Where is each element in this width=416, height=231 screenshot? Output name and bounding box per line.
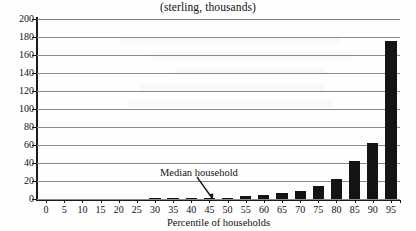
y-tick-mark-200 [32, 19, 37, 20]
x-tick-mark-10 [82, 200, 83, 203]
y-tick-mark-120 [32, 91, 37, 92]
x-tick-mark-80 [336, 200, 337, 203]
y-tick-mark-0 [32, 199, 37, 200]
y-tick-mark-20 [32, 181, 37, 182]
x-axis-title: Percentile of households [37, 217, 400, 228]
y-tick-mark-60 [32, 145, 37, 146]
y-tick-mark-180 [32, 37, 37, 38]
x-tick-mark-25 [137, 200, 138, 203]
y-tick-label-200: 200 [4, 14, 34, 24]
y-tick-mark-140 [32, 73, 37, 74]
y-tick-label-0: 0 [4, 194, 34, 204]
x-tick-mark-end [400, 200, 401, 203]
x-tick-mark-70 [300, 200, 301, 203]
gridline-200 [37, 19, 400, 20]
bar-percentile-75 [313, 186, 324, 199]
x-tick-mark-95 [391, 200, 392, 203]
y-tick-mark-80 [32, 127, 37, 128]
bar-percentile-80 [331, 179, 342, 199]
x-tick-mark-30 [155, 200, 156, 203]
x-tick-label-95: 95 [380, 204, 402, 215]
y-tick-label-120: 120 [4, 86, 34, 96]
gridline-100 [37, 109, 400, 110]
annotation-arrow-icon [196, 176, 226, 202]
chart-figure: (sterling, thousands) 020406080100120140… [0, 0, 416, 231]
x-tick-mark-5 [64, 200, 65, 203]
x-tick-mark-85 [355, 200, 356, 203]
y-tick-label-180: 180 [4, 32, 34, 42]
bar-percentile-70 [295, 191, 306, 199]
bar-percentile-30 [149, 198, 160, 199]
y-tick-mark-100 [32, 109, 37, 110]
bar-percentile-90 [367, 143, 378, 199]
x-tick-mark-15 [101, 200, 102, 203]
x-tick-mark-65 [282, 200, 283, 203]
y-tick-label-40: 40 [4, 158, 34, 168]
bar-percentile-95 [385, 41, 396, 199]
y-tick-label-100: 100 [4, 104, 34, 114]
x-tick-mark-75 [318, 200, 319, 203]
y-tick-mark-40 [32, 163, 37, 164]
gridline-60 [37, 145, 400, 146]
bar-percentile-55 [240, 196, 251, 199]
y-tick-label-80: 80 [4, 122, 34, 132]
y-tick-label-60: 60 [4, 140, 34, 150]
x-tick-mark-50 [228, 200, 229, 203]
x-tick-mark-20 [119, 200, 120, 203]
gridline-80 [37, 127, 400, 128]
bar-percentile-85 [349, 161, 360, 199]
y-tick-label-140: 140 [4, 68, 34, 78]
bar-percentile-35 [167, 198, 178, 199]
gridline-160 [37, 55, 400, 56]
bar-percentile-65 [276, 193, 287, 199]
y-tick-label-160: 160 [4, 50, 34, 60]
gridline-180 [37, 37, 400, 38]
bar-percentile-60 [258, 195, 269, 199]
gridline-120 [37, 91, 400, 92]
gridline-40 [37, 163, 400, 164]
gridline-140 [37, 73, 400, 74]
y-tick-mark-160 [32, 55, 37, 56]
x-tick-mark-60 [264, 200, 265, 203]
x-tick-mark-40 [191, 200, 192, 203]
x-tick-mark-90 [373, 200, 374, 203]
y-tick-label-20: 20 [4, 176, 34, 186]
x-tick-mark-55 [246, 200, 247, 203]
chart-title: (sterling, thousands) [0, 1, 416, 13]
x-tick-mark-0 [46, 200, 47, 203]
x-tick-mark-35 [173, 200, 174, 203]
